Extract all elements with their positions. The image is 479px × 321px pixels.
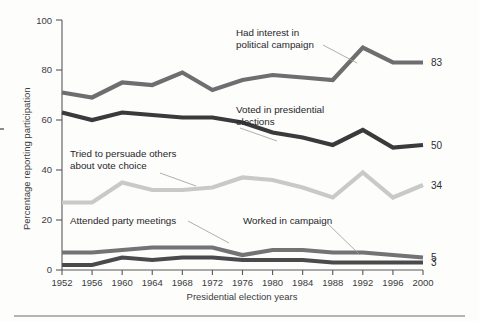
y-tick-label-0: 0 [47,264,52,275]
x-tick-label-1996: 1996 [382,277,403,288]
x-tick-label-1976: 1976 [232,277,253,288]
x-tick-label-1960: 1960 [112,277,133,288]
x-tick-label-1956: 1956 [82,277,103,288]
leader-had-interest [323,45,357,63]
end-label-4: 3 [431,257,437,268]
leader-meetings [188,221,229,243]
x-tick-label-1964: 1964 [142,277,163,288]
y-axis-title: Percentage reporting participation [21,87,32,230]
series-line-0 [62,48,423,98]
x-axis-title: Presidential election years [187,291,298,302]
annotation-persuade: Tried to persuade others about vote choi… [70,148,179,171]
x-tick-label-1968: 1968 [172,277,193,288]
end-label-1: 50 [431,140,443,151]
annotation-meetings: Attended party meetings [70,215,176,226]
x-tick-label-1952: 1952 [51,277,72,288]
x-tick-label-1980: 1980 [262,277,283,288]
y-tick-label-40: 40 [41,164,52,175]
end-label-0: 83 [431,57,443,68]
y-tick-label-60: 60 [41,114,52,125]
leader-worked [326,222,360,255]
x-tick-label-1988: 1988 [322,277,343,288]
x-tick-label-1992: 1992 [352,277,373,288]
y-tick-label-20: 20 [41,214,52,225]
series-line-4 [62,258,423,266]
y-ticks: 0 20 40 60 80 100 [36,15,62,275]
x-tick-label-2000: 2000 [412,277,433,288]
y-tick-label-100: 100 [36,15,52,26]
x-tick-label-1984: 1984 [292,277,313,288]
annotation-worked: Worked in campaign [243,215,332,226]
leader-persuade [160,173,196,186]
end-label-2: 34 [431,180,443,191]
axes-group [62,20,423,270]
y-tick-label-80: 80 [41,64,52,75]
series-line-3 [62,248,423,258]
annotation-voted: Voted in presidential elections [236,104,327,127]
x-tick-label-1972: 1972 [202,277,223,288]
line-chart: 0 20 40 60 80 100 1952195619601964196819… [0,0,479,321]
annotation-had-interest: Had interest in political campaign [236,27,314,50]
chart-page: 0 20 40 60 80 100 1952195619601964196819… [0,0,479,321]
series-end-labels: 83503453 [431,57,443,268]
x-ticks: 1952195619601964196819721976198019841988… [51,270,433,288]
series-line-2 [62,173,423,203]
page-edge-mark-left [0,128,4,130]
